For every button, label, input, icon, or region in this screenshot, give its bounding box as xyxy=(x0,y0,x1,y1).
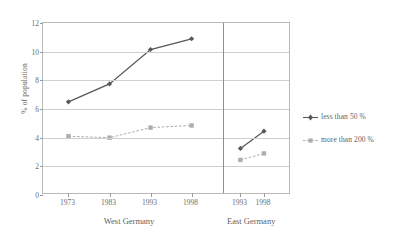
chart-container: % of population 024681012 19731983199319… xyxy=(0,0,399,241)
data-point-marker xyxy=(66,99,71,104)
y-axis-tick-mark xyxy=(40,52,43,53)
gridline xyxy=(43,138,289,139)
x-axis-tick-mark xyxy=(240,193,241,197)
data-point-marker xyxy=(262,151,266,155)
x-axis-tick-mark xyxy=(192,193,193,197)
legend-marker-square-icon xyxy=(303,136,318,145)
legend-marker-diamond-icon xyxy=(303,113,318,122)
y-axis-tick-label: 4 xyxy=(35,133,39,142)
y-axis-tick-label: 12 xyxy=(32,19,40,28)
plot-area: 024681012 xyxy=(42,22,290,194)
gridline xyxy=(43,166,289,167)
x-axis-group-label: West Germany xyxy=(104,216,155,226)
data-point-marker xyxy=(189,36,194,41)
series-layer xyxy=(43,23,289,193)
x-axis-group-label: East Germany xyxy=(227,216,275,226)
group-divider xyxy=(223,23,224,193)
x-axis-tick-label: 1993 xyxy=(232,198,247,207)
y-axis-tick-mark xyxy=(40,195,43,196)
data-point-marker xyxy=(238,158,242,162)
legend-item-1: more than 200 % xyxy=(303,135,399,145)
data-point-marker xyxy=(107,81,112,86)
x-axis-tick-mark xyxy=(151,193,152,197)
series-line xyxy=(68,39,191,102)
y-axis-tick-mark xyxy=(40,166,43,167)
x-axis-tick-mark xyxy=(110,193,111,197)
data-point-marker xyxy=(189,123,193,127)
series-line xyxy=(68,125,191,137)
y-axis-tick-mark xyxy=(40,23,43,24)
legend-item-0: less than 50 % xyxy=(303,112,399,122)
y-axis-tick-mark xyxy=(40,138,43,139)
gridline xyxy=(43,109,289,110)
y-axis-tick-label: 6 xyxy=(35,105,39,114)
gridline xyxy=(43,80,289,81)
data-point-marker xyxy=(148,125,152,129)
y-axis-tick-mark xyxy=(40,80,43,81)
legend-label-1: more than 200 % xyxy=(321,135,374,145)
x-axis-tick-label: 1973 xyxy=(60,198,75,207)
gridline xyxy=(43,52,289,53)
x-axis-tick-label: 1993 xyxy=(142,198,157,207)
data-point-marker xyxy=(238,146,243,151)
x-axis-tick-mark xyxy=(68,193,69,197)
legend: less than 50 % more than 200 % xyxy=(303,112,399,158)
x-axis-tick-mark xyxy=(264,193,265,197)
y-axis-tick-label: 10 xyxy=(32,47,40,56)
series-line xyxy=(240,131,264,148)
x-axis-tick-label: 1998 xyxy=(255,198,270,207)
y-axis-tick-mark xyxy=(40,109,43,110)
y-axis-label: % of population xyxy=(20,29,29,149)
y-axis-tick-label: 0 xyxy=(35,191,39,200)
legend-label-0: less than 50 % xyxy=(321,112,366,122)
x-axis-tick-label: 1983 xyxy=(101,198,116,207)
data-point-marker xyxy=(261,129,266,134)
y-axis-tick-label: 2 xyxy=(35,162,39,171)
series-line xyxy=(240,153,264,159)
x-axis-tick-label: 1998 xyxy=(183,198,198,207)
y-axis-tick-label: 8 xyxy=(35,76,39,85)
